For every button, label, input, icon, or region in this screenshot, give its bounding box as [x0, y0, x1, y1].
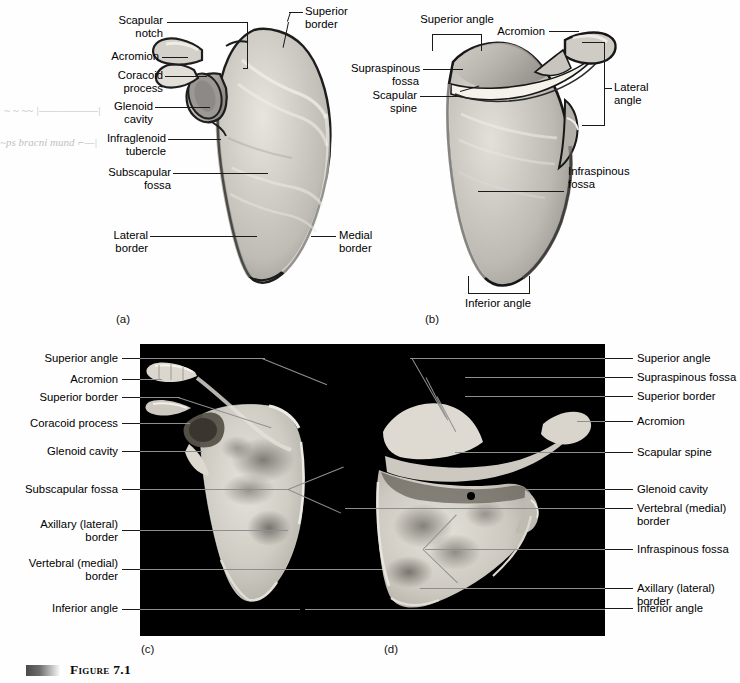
- label-c-superior-angle: Superior angle: [20, 352, 118, 365]
- sublabel-a: (a): [116, 313, 130, 325]
- figure-7-1: Scapular notch Acromion Coracoid process…: [0, 0, 740, 683]
- photo-leader-d-superior-angle: [410, 358, 605, 359]
- label-d-glenoid-cavity: Glenoid cavity: [637, 483, 737, 496]
- label-d-superior-border: Superior border: [637, 390, 740, 403]
- stub-d-supraspinous-fossa: [605, 377, 633, 378]
- label-lateral-border-a: Lateral border: [56, 229, 148, 254]
- label-d-acromion: Acromion: [637, 415, 737, 428]
- label-c-inferior-angle: Inferior angle: [22, 602, 118, 615]
- photo-leader-c-glenoid-cavity: [140, 451, 202, 452]
- leader-acromion-a: [162, 57, 188, 58]
- label-acromion-a: Acromion: [60, 50, 159, 63]
- photo-leader-d-vertebral-border: [345, 508, 605, 509]
- bracket-inferior-angle-b: [468, 276, 530, 294]
- label-inferior-angle-b: Inferior angle: [453, 297, 543, 310]
- stub-c-superior-angle: [122, 358, 140, 359]
- label-c-axillary-border: Axillary (lateral) border: [22, 518, 118, 543]
- caption-gradient-bar: [26, 665, 60, 676]
- label-scapular-notch: Scapular notch: [60, 14, 163, 39]
- stub-c-inferior-angle: [122, 609, 140, 610]
- scapula-photo-d: [365, 386, 595, 626]
- caption-label: Figure 7.1: [70, 662, 131, 678]
- label-d-inferior-angle: Inferior angle: [637, 602, 740, 615]
- figure-caption: Figure 7.1: [26, 662, 131, 678]
- scapula-photographs-panel: [140, 344, 605, 636]
- sublabel-b: (b): [425, 313, 439, 325]
- stub-c-vertebral-border: [122, 569, 140, 570]
- photo-leader-c-inferior-angle: [140, 609, 300, 610]
- photo-leader-c-acromion: [140, 379, 162, 380]
- leader-glenoid-cavity-a: [155, 107, 210, 108]
- leader-subscapular-fossa-a: [173, 173, 268, 174]
- handwritten-annotation-2: ~ps bracni mund ⌐—|: [0, 136, 97, 148]
- label-acromion-b: Acromion: [470, 25, 545, 38]
- label-superior-angle-b: Superior angle: [413, 13, 501, 26]
- label-d-vertebral-border: Vertebral (medial) border: [637, 502, 740, 527]
- label-infraspinous-fossa-b: Infraspinous fossa: [568, 165, 650, 190]
- label-d-supraspinous-fossa: Supraspinous fossa: [637, 371, 740, 384]
- leader-acromion-b: [549, 31, 579, 32]
- stub-d-scapular-spine: [605, 452, 633, 453]
- sublabel-d: (d): [384, 643, 398, 655]
- photo-leader-d-scapular-spine: [455, 452, 605, 453]
- photo-leader-d-superior-border: [465, 396, 605, 397]
- photo-leader-c-coracoid-process: [140, 423, 190, 424]
- stub-d-vertebral-border: [605, 508, 633, 509]
- label-c-glenoid-cavity: Glenoid cavity: [22, 445, 118, 458]
- photo-leader-d-supraspinous-fossa: [465, 377, 605, 378]
- label-d-superior-angle: Superior angle: [637, 352, 740, 365]
- photo-leader-d-axillary-border: [420, 588, 605, 589]
- scapula-photo-c: [145, 352, 365, 624]
- label-c-vertebral-border: Vertebral (medial) border: [18, 557, 118, 582]
- leader-lateral-angle-b: [604, 88, 612, 89]
- photo-leader-d-acromion: [577, 421, 605, 422]
- stub-d-inferior-angle: [605, 608, 633, 609]
- leader-infraglenoid-tubercle-a: [168, 139, 221, 140]
- stub-d-acromion: [605, 421, 633, 422]
- stub-d-infraspinous-fossa: [605, 549, 633, 550]
- label-d-infraspinous-fossa: Infraspinous fossa: [637, 543, 740, 556]
- photo-leader-d-glenoid-cavity: [525, 489, 605, 490]
- label-medial-border-a: Medial border: [339, 229, 419, 254]
- label-supraspinous-fossa-b: Supraspinous fossa: [351, 62, 419, 87]
- photo-leader-c-vertebral-border: [140, 569, 398, 570]
- label-superior-border-a: Superior border: [305, 5, 385, 30]
- stub-d-axillary-border: [605, 588, 633, 589]
- label-c-superior-border: Superior border: [14, 391, 118, 404]
- photo-leader-c-subscapular-fossa: [140, 489, 290, 490]
- label-scapular-spine-b: Scapular spine: [351, 89, 417, 114]
- scapula-anterior-drawing: [150, 18, 350, 293]
- stub-c-coracoid-process: [122, 423, 140, 424]
- label-c-coracoid-process: Coracoid process: [10, 417, 118, 430]
- leader-coracoid-process-a: [165, 76, 207, 77]
- stub-c-superior-border: [122, 397, 140, 398]
- sublabel-c: (c): [141, 643, 154, 655]
- photo-leader-d-inferior-angle: [305, 609, 605, 610]
- label-subscapular-fossa-a: Subscapular fossa: [58, 166, 171, 191]
- photo-leader-d-infraspinous-fossa: [425, 549, 605, 550]
- stub-d-superior-angle: [605, 358, 633, 359]
- stub-d-superior-border: [605, 396, 633, 397]
- leader-scapular-notch-v: [247, 22, 248, 69]
- leader-medial-border-a: [311, 236, 336, 237]
- stub-c-acromion: [122, 379, 140, 380]
- leader-superior-border-a3: [289, 12, 303, 13]
- label-coracoid-process-a: Coracoid process: [60, 69, 163, 94]
- photo-leader-c-axillary-border: [140, 530, 288, 531]
- leader-lateral-border-a: [150, 236, 257, 237]
- stub-c-glenoid-cavity: [122, 451, 140, 452]
- stub-c-subscapular-fossa: [122, 489, 140, 490]
- handwritten-annotation-1: ~ ~ ~~ |——————|: [4, 104, 101, 116]
- leader-scapular-spine-b: [420, 96, 462, 97]
- photo-leader-c-superior-border: [140, 397, 180, 398]
- label-lateral-angle-b: Lateral angle: [614, 81, 684, 106]
- label-d-scapular-spine: Scapular spine: [637, 446, 740, 459]
- leader-infraspinous-fossa-b: [478, 191, 564, 192]
- stub-c-axillary-border: [122, 530, 140, 531]
- stub-d-glenoid-cavity: [605, 489, 633, 490]
- photo-leader-c-superior-angle: [140, 358, 265, 359]
- label-c-subscapular-fossa: Subscapular fossa: [6, 483, 118, 496]
- leader-scapular-notch-tip: [243, 68, 248, 69]
- leader-supraspinous-fossa-b: [423, 69, 463, 70]
- label-c-acromion: Acromion: [20, 373, 118, 386]
